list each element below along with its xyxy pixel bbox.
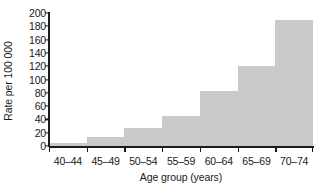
bar (275, 20, 313, 146)
bar-chart-figure: Rate per 100 000 02040608010012014016018… (0, 0, 327, 190)
x-axis-tick-label: 40–44 (49, 154, 87, 168)
bar (87, 137, 125, 146)
x-axis-tick (312, 147, 313, 152)
bar (124, 128, 162, 146)
x-axis-tick-label: 55–59 (162, 154, 200, 168)
x-axis-title: Age group (years) (49, 170, 313, 184)
bar-series (49, 13, 313, 146)
x-axis-tick-label: 50–54 (124, 154, 162, 168)
y-axis-tick-label-group: 020406080100120140160180200 (16, 7, 46, 147)
y-axis-tick-label: 100 (16, 74, 46, 85)
x-axis-tick (162, 147, 163, 152)
x-axis-tick (124, 147, 125, 152)
x-axis-tick-label: 45–49 (87, 154, 125, 168)
x-axis-tick (238, 147, 239, 152)
y-axis-tick-label: 20 (16, 127, 46, 138)
bar (238, 66, 276, 146)
y-axis-tick-label: 40 (16, 114, 46, 125)
y-axis-tick-label: 140 (16, 47, 46, 58)
x-axis-tick-label-group: 40–4445–4950–5455–5960–6465–6970–74 (49, 154, 313, 168)
x-axis-tick (275, 147, 276, 152)
x-axis-tick (87, 147, 88, 152)
x-axis-tick-label: 70–74 (275, 154, 313, 168)
y-axis-tick-label: 180 (16, 21, 46, 32)
y-axis-tick-label: 120 (16, 61, 46, 72)
y-axis-line (48, 12, 50, 147)
y-axis-tick-label: 160 (16, 34, 46, 45)
y-axis-tick-label: 200 (16, 8, 46, 19)
y-axis-tick-label: 0 (16, 141, 46, 152)
x-axis-tick (200, 147, 201, 152)
bar (200, 91, 238, 146)
bar (162, 116, 200, 146)
plot-area (49, 13, 313, 146)
x-axis-tick-label: 60–64 (200, 154, 238, 168)
y-axis-title: Rate per 100 000 (1, 6, 15, 156)
x-axis-tick-label: 65–69 (238, 154, 276, 168)
x-axis-tick-marks (49, 147, 314, 152)
x-axis-tick (49, 147, 50, 152)
y-axis-tick-label: 80 (16, 87, 46, 98)
y-axis-tick-label: 60 (16, 101, 46, 112)
